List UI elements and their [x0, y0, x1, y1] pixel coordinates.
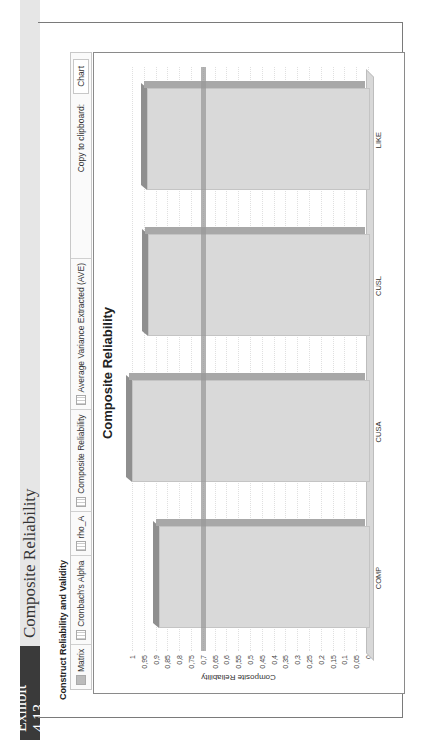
- table-icon: [76, 395, 86, 405]
- bar-side-face: [144, 81, 365, 88]
- y-tick-label: 0,45: [258, 655, 265, 669]
- results-tab-bar: Matrix Cronbach's Alpha rho_A Composite …: [70, 52, 92, 690]
- y-tick-label: 0,25: [306, 655, 313, 669]
- y-tick-label: 0,2: [317, 655, 324, 665]
- y-tick-label: 0,75: [188, 655, 195, 669]
- bar-cusl: [148, 234, 370, 336]
- tab-rho-a[interactable]: rho_A: [71, 511, 91, 556]
- bar-top-face: [142, 229, 148, 336]
- table-icon: [76, 497, 86, 507]
- y-tick-label: 0,3: [294, 655, 301, 665]
- exhibit-number: Exhibit 4.13: [20, 646, 40, 740]
- bar-comp: [159, 526, 370, 628]
- tab-label: rho_A: [76, 516, 86, 539]
- bar-side-face: [145, 227, 365, 234]
- tab-cronbachs-alpha[interactable]: Cronbach's Alpha: [71, 555, 91, 643]
- y-tick-label: 0,1: [341, 655, 348, 665]
- x-tick-label: COMP: [374, 528, 383, 628]
- y-tick-label: 0,55: [235, 655, 242, 669]
- exhibit-title: Composite Reliability: [20, 0, 40, 646]
- y-tick-label: 0,15: [329, 655, 336, 669]
- matrix-icon: [76, 675, 86, 685]
- y-tick-label: 0,5: [247, 655, 254, 665]
- y-tick-label: 0,9: [152, 655, 159, 665]
- y-tick-label: 0,6: [223, 655, 230, 665]
- y-tick-label: 0,85: [164, 655, 171, 669]
- plot-area: [122, 67, 368, 651]
- bar-side-face: [156, 519, 365, 526]
- tab-label: Composite Reliability: [76, 414, 86, 493]
- y-tick-label: 1: [129, 655, 136, 659]
- bar-top-face: [153, 521, 159, 628]
- y-tick-label: 0,7: [199, 655, 206, 665]
- bar-cusa: [132, 380, 370, 482]
- table-icon: [76, 541, 86, 551]
- table-icon: [76, 630, 86, 640]
- tab-ave[interactable]: Average Variance Extracted (AVE): [71, 258, 91, 409]
- copy-chart-button[interactable]: Chart: [73, 59, 89, 94]
- tab-matrix[interactable]: Matrix: [71, 644, 91, 689]
- tab-label: Cronbach's Alpha: [76, 560, 86, 626]
- y-tick-label: 0,8: [176, 655, 183, 665]
- y-axis-ticks: 10,950,90,850,80,750,70,650,60,550,50,45…: [122, 655, 368, 693]
- bar-like: [147, 88, 370, 190]
- y-tick-label: 0,4: [270, 655, 277, 665]
- bar-top-face: [126, 375, 132, 482]
- grid-line: [132, 67, 133, 651]
- y-tick-label: 0,05: [353, 655, 360, 669]
- book-page: Exhibit 4.13 Composite Reliability Const…: [0, 0, 424, 744]
- exhibit-header: Exhibit 4.13 Composite Reliability: [20, 0, 40, 740]
- x-tick-label: LIKE: [374, 90, 383, 190]
- tab-composite-reliability[interactable]: Composite Reliability: [71, 409, 91, 510]
- x-tick-label: CUSL: [374, 236, 383, 336]
- chart-panel: Composite Reliability Composite Reliabil…: [93, 52, 405, 694]
- section-title: Construct Reliability and Validity: [58, 560, 68, 700]
- chart-title: Composite Reliability: [100, 53, 115, 693]
- bar-top-face: [141, 83, 147, 190]
- copy-to-clipboard-label: Copy to clipboard:: [76, 94, 86, 183]
- y-tick-label: 0,35: [282, 655, 289, 669]
- y-tick-label: 0,65: [211, 655, 218, 669]
- bar-side-face: [129, 373, 365, 380]
- tab-label: Average Variance Extracted (AVE): [76, 263, 86, 392]
- threshold-line: [201, 67, 206, 651]
- y-tick-label: 0,95: [140, 655, 147, 669]
- x-tick-label: CUSA: [374, 382, 383, 482]
- tab-label: Matrix: [76, 649, 86, 672]
